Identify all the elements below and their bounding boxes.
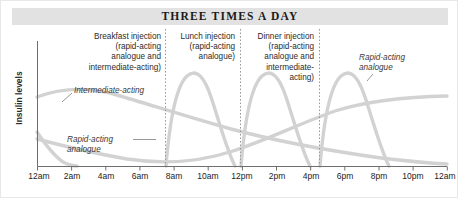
curve-label-rapid-acting-right: Rapid-acting analogue xyxy=(359,53,405,73)
insulin-regimen-figure: THREE TIMES A DAY xyxy=(0,0,458,198)
x-tick-label-6: 12pm xyxy=(231,171,252,181)
annotation-dinner-injection: Dinner injection (rapid-acting analogue … xyxy=(246,32,314,83)
x-tick-label-2: 4am xyxy=(98,171,115,181)
curve-rapid-dinner xyxy=(320,73,389,166)
curve-label-rapid-acting-left: Rapid-acting analogue xyxy=(67,135,113,155)
x-tick-label-12: 12am xyxy=(434,171,455,181)
chart-svg xyxy=(1,1,458,198)
x-tick-label-1: 2am xyxy=(64,171,81,181)
x-axis-ticks xyxy=(38,167,448,171)
curve-label-intermediate-acting: Intermediate-acting xyxy=(74,86,144,96)
x-tick-label-4: 8am xyxy=(166,171,183,181)
chart-plot-area: Insulin levels 12am 2am 4am 6am 8am 10am… xyxy=(1,1,458,198)
leader-line-rapid-right xyxy=(367,74,373,81)
x-tick-label-11: 10pm xyxy=(402,171,423,181)
y-axis-title: Insulin levels xyxy=(14,52,24,144)
annotation-breakfast-injection: Breakfast injection (rapid-acting analog… xyxy=(65,32,161,73)
annotation-lunch-injection: Lunch injection (rapid-acting analogue) xyxy=(171,32,235,63)
x-tick-label-7: 2pm xyxy=(269,171,286,181)
x-tick-label-5: 10am xyxy=(197,171,218,181)
leader-line-intermediate xyxy=(62,93,72,102)
x-tick-label-3: 6am xyxy=(132,171,149,181)
x-tick-label-10: 8pm xyxy=(371,171,388,181)
x-tick-label-9: 6pm xyxy=(337,171,354,181)
x-tick-label-8: 4pm xyxy=(303,171,320,181)
x-tick-label-0: 12am xyxy=(28,171,49,181)
curve-rapid-lunch xyxy=(241,73,310,166)
